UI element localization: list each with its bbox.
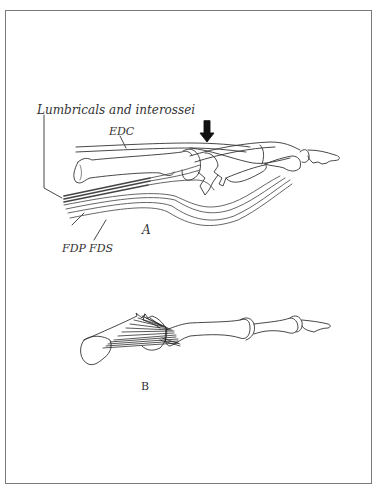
panel-a-drawing: [44, 115, 339, 240]
panel-a-label: A: [142, 224, 151, 236]
finger-anatomy-illustration: [0, 0, 383, 494]
label-fdp: FDP: [62, 243, 86, 254]
label-lumbricals-and-interossei: Lumbricals and interossei: [37, 104, 195, 116]
panel-b-label: B: [141, 381, 149, 392]
label-fds: FDS: [89, 243, 113, 254]
label-edc: EDC: [109, 126, 134, 137]
panel-b-drawing: [81, 313, 331, 365]
